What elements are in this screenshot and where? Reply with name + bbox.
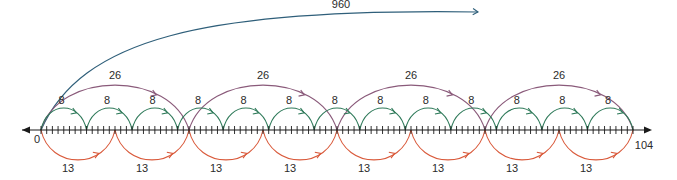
jump-arc (337, 130, 411, 160)
jumps-of-26-label: 26 (553, 69, 565, 81)
jumps-of-8-label: 8 (241, 94, 247, 106)
jump-arc (189, 85, 337, 130)
jumps-of-8-label: 8 (423, 94, 429, 106)
jumps-of-8-label: 8 (468, 94, 474, 106)
jump-arc (485, 130, 559, 160)
jump-arc (41, 130, 115, 160)
axis-start-label: 0 (34, 133, 40, 145)
jumps-of-8-label: 8 (58, 94, 64, 106)
jumps-of-13-label: 13 (284, 162, 296, 174)
jumps-of-26-label: 26 (405, 69, 417, 81)
jump-arc (115, 130, 189, 160)
jumps-of-13-layer (41, 130, 633, 160)
number-line-svg: 0104262626268888888888888131313131313131… (0, 0, 677, 180)
jump-arc (337, 85, 485, 130)
right-arrow-icon (644, 127, 652, 134)
jumps-of-8-label: 8 (605, 94, 611, 106)
jumps-of-13-label: 13 (62, 162, 74, 174)
jumps-of-13-label: 13 (580, 162, 592, 174)
jumps-of-13-label: 13 (432, 162, 444, 174)
jumps-of-26-label: 26 (257, 69, 269, 81)
jump-arc (263, 130, 337, 160)
jumps-of-8-label: 8 (559, 94, 565, 106)
jumps-of-13-label: 13 (210, 162, 222, 174)
big-arc-label: 960 (332, 0, 350, 10)
number-line-diagram: 0104262626268888888888888131313131313131… (0, 0, 677, 180)
jump-arc (559, 130, 633, 160)
jumps-of-8-label: 8 (150, 94, 156, 106)
jumps-of-8-label: 8 (195, 94, 201, 106)
jumps-of-13-label: 13 (358, 162, 370, 174)
jump-arc (189, 130, 263, 160)
jumps-of-8-label: 8 (332, 94, 338, 106)
jumps-of-8-label: 8 (377, 94, 383, 106)
labels-layer: 0104262626268888888888888131313131313131… (34, 0, 653, 174)
jumps-of-13-label: 13 (506, 162, 518, 174)
axis-end-label: 104 (635, 139, 653, 151)
jump-arc (411, 130, 485, 160)
jumps-of-26-label: 26 (109, 69, 121, 81)
jumps-of-8-label: 8 (286, 94, 292, 106)
jumps-of-8-label: 8 (104, 94, 110, 106)
jumps-of-13-label: 13 (136, 162, 148, 174)
left-arrow-icon (22, 127, 30, 134)
number-line-axis (22, 126, 652, 134)
jumps-of-8-label: 8 (514, 94, 520, 106)
